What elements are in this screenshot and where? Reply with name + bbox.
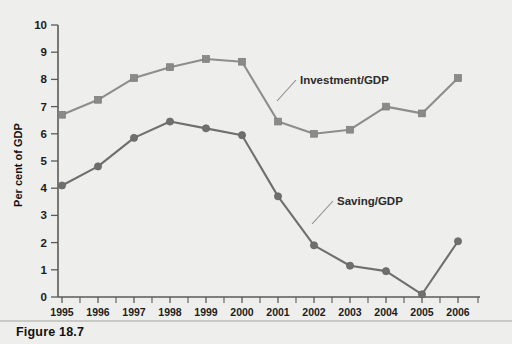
x-axis-tick-label: 1998 bbox=[158, 306, 182, 318]
data-point-marker bbox=[130, 134, 137, 141]
x-axis-tick-label: 2001 bbox=[266, 306, 290, 318]
data-point-marker bbox=[418, 291, 425, 298]
data-point-marker bbox=[274, 193, 281, 200]
y-axis-title: Per cent of GDP bbox=[12, 123, 24, 207]
data-point-marker bbox=[94, 163, 101, 170]
data-point-marker bbox=[166, 118, 173, 125]
series-label-2: Saving/GDP bbox=[337, 195, 403, 207]
x-axis-tick-label: 1995 bbox=[50, 306, 74, 318]
series-label-1: Investment/GDP bbox=[300, 74, 389, 86]
x-axis: 1995199619971998199920002001200220032004… bbox=[50, 297, 480, 318]
data-point-marker bbox=[203, 56, 210, 63]
x-axis-tick-label: 1999 bbox=[194, 306, 218, 318]
x-axis-tick-label: 2006 bbox=[446, 306, 470, 318]
data-point-marker bbox=[167, 64, 174, 71]
y-axis-tick-label: 0 bbox=[41, 291, 47, 303]
data-point-marker bbox=[202, 125, 209, 132]
y-axis-tick-label: 2 bbox=[41, 237, 47, 249]
y-axis-tick-label: 3 bbox=[41, 209, 47, 221]
series-layer bbox=[58, 56, 461, 298]
data-point-marker bbox=[347, 126, 354, 133]
data-point-marker bbox=[346, 262, 353, 269]
data-point-marker bbox=[382, 268, 389, 275]
y-axis-tick-label: 1 bbox=[41, 264, 48, 276]
data-point-marker bbox=[238, 132, 245, 139]
data-point-marker bbox=[59, 111, 66, 118]
y-axis-tick-label: 5 bbox=[41, 155, 48, 167]
y-axis-tick-label: 4 bbox=[41, 182, 48, 194]
y-axis-tick-label: 6 bbox=[41, 128, 47, 140]
x-axis-tick-label: 2004 bbox=[374, 306, 398, 318]
x-axis-tick-label: 2002 bbox=[302, 306, 326, 318]
figure-caption: Figure 18.7 bbox=[16, 325, 84, 339]
x-axis-tick-label: 1996 bbox=[86, 306, 110, 318]
series-line-1 bbox=[62, 59, 458, 134]
y-axis-tick-label: 8 bbox=[41, 73, 48, 85]
x-axis-tick-label: 2005 bbox=[410, 306, 434, 318]
line-chart: 012345678910 199519961997199819992000200… bbox=[0, 0, 512, 344]
y-axis: 012345678910 bbox=[34, 19, 58, 303]
data-point-marker bbox=[455, 75, 462, 82]
x-axis-tick-label: 2000 bbox=[230, 306, 254, 318]
data-point-marker bbox=[95, 96, 102, 103]
data-point-marker bbox=[311, 130, 318, 137]
data-point-marker bbox=[131, 75, 138, 82]
annotation-layer: Investment/GDPSaving/GDP bbox=[277, 74, 403, 224]
data-point-marker bbox=[383, 103, 390, 110]
figure-container: 012345678910 199519961997199819992000200… bbox=[0, 0, 512, 344]
y-axis-tick-label: 9 bbox=[41, 46, 47, 58]
data-point-marker bbox=[310, 242, 317, 249]
data-point-marker bbox=[58, 182, 65, 189]
data-point-marker bbox=[454, 238, 461, 245]
data-point-marker bbox=[419, 110, 426, 117]
x-axis-tick-label: 1997 bbox=[122, 306, 146, 318]
caption-divider bbox=[0, 320, 512, 322]
data-point-marker bbox=[275, 118, 282, 125]
x-axis-tick-label: 2003 bbox=[338, 306, 362, 318]
annotation-leader-line bbox=[312, 201, 333, 224]
y-axis-tick-label: 7 bbox=[41, 101, 47, 113]
annotation-leader-line bbox=[277, 80, 296, 101]
series-line-2 bbox=[62, 122, 458, 295]
y-axis-tick-label: 10 bbox=[34, 19, 47, 31]
data-point-marker bbox=[239, 58, 246, 65]
